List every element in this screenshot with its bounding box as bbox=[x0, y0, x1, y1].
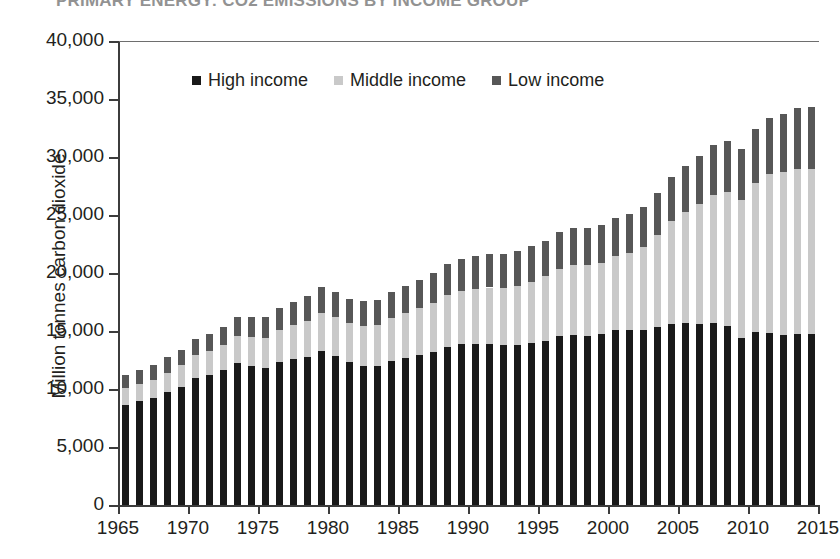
bar-segment bbox=[556, 336, 563, 505]
bar-segment bbox=[458, 291, 465, 344]
bar-segment bbox=[738, 338, 745, 505]
x-axis-tick-label: 1995 bbox=[503, 517, 573, 539]
bar-segment bbox=[374, 366, 381, 505]
bar-segment bbox=[570, 265, 577, 335]
bar-segment bbox=[542, 276, 549, 340]
bar-segment bbox=[150, 365, 157, 379]
bar-segment bbox=[710, 323, 717, 505]
x-axis-tick-mark bbox=[538, 505, 540, 514]
bar-segment bbox=[122, 375, 129, 388]
bar-1998 bbox=[584, 41, 591, 505]
bar-segment bbox=[402, 313, 409, 358]
bar-segment bbox=[332, 292, 339, 318]
bar-segment bbox=[794, 334, 801, 505]
bar-segment bbox=[430, 352, 437, 505]
bar-segment bbox=[598, 334, 605, 505]
bar-1976 bbox=[276, 41, 283, 505]
bar-segment bbox=[472, 256, 479, 289]
bar-segment bbox=[360, 301, 367, 326]
bar-1986 bbox=[416, 41, 423, 505]
bar-segment bbox=[374, 300, 381, 325]
bar-segment bbox=[696, 324, 703, 505]
bar-segment bbox=[458, 344, 465, 505]
bar-segment bbox=[430, 303, 437, 352]
bar-segment bbox=[808, 107, 815, 169]
bar-segment bbox=[402, 286, 409, 313]
y-axis-tick-mark bbox=[109, 389, 118, 391]
chart-title: PRIMARY ENERGY: CO2 EMISSIONS BY INCOME … bbox=[56, 0, 530, 11]
bar-segment bbox=[752, 332, 759, 505]
x-axis-tick-mark bbox=[818, 505, 820, 514]
bar-segment bbox=[304, 357, 311, 505]
bar-segment bbox=[248, 317, 255, 337]
bar-segment bbox=[206, 375, 213, 505]
legend-item-label: Low income bbox=[508, 70, 604, 91]
bar-segment bbox=[290, 325, 297, 359]
bar-2007 bbox=[710, 41, 717, 505]
bar-segment bbox=[752, 129, 759, 183]
x-axis-tick-label: 2000 bbox=[573, 517, 643, 539]
bar-segment bbox=[192, 378, 199, 505]
bar-segment bbox=[654, 235, 661, 327]
bar-1999 bbox=[598, 41, 605, 505]
y-axis-tick-mark bbox=[109, 215, 118, 217]
bar-segment bbox=[472, 289, 479, 344]
bar-2000 bbox=[612, 41, 619, 505]
bar-1972 bbox=[220, 41, 227, 505]
y-axis-tick-label: 10,000 bbox=[46, 377, 104, 399]
bar-1993 bbox=[514, 41, 521, 505]
bar-segment bbox=[556, 232, 563, 269]
bar-2001 bbox=[626, 41, 633, 505]
legend-item-label: Middle income bbox=[350, 70, 466, 91]
bar-segment bbox=[584, 336, 591, 505]
bar-segment bbox=[136, 401, 143, 505]
bar-segment bbox=[486, 344, 493, 505]
bar-segment bbox=[668, 177, 675, 221]
bar-2004 bbox=[668, 41, 675, 505]
bar-1975 bbox=[262, 41, 269, 505]
bar-segment bbox=[724, 326, 731, 505]
bar-segment bbox=[612, 218, 619, 256]
bar-segment bbox=[640, 330, 647, 505]
bar-1969 bbox=[178, 41, 185, 505]
bar-segment bbox=[164, 357, 171, 372]
bar-2013 bbox=[794, 41, 801, 505]
bar-segment bbox=[360, 326, 367, 366]
bar-segment bbox=[304, 296, 311, 320]
bar-segment bbox=[122, 405, 129, 505]
bar-segment bbox=[780, 114, 787, 173]
bar-segment bbox=[612, 330, 619, 505]
bar-segment bbox=[780, 335, 787, 505]
x-axis-tick-label: 2005 bbox=[643, 517, 713, 539]
bar-segment bbox=[318, 351, 325, 505]
x-axis-tick-label: 1965 bbox=[83, 517, 153, 539]
bar-segment bbox=[668, 324, 675, 505]
bar-segment bbox=[528, 343, 535, 505]
bar-2014 bbox=[808, 41, 815, 505]
legend-item: Middle income bbox=[334, 70, 466, 91]
bar-segment bbox=[122, 388, 129, 405]
bar-2009 bbox=[738, 41, 745, 505]
bar-segment bbox=[514, 251, 521, 286]
bar-segment bbox=[248, 337, 255, 365]
bar-2002 bbox=[640, 41, 647, 505]
bar-segment bbox=[500, 288, 507, 345]
bar-1979 bbox=[318, 41, 325, 505]
bar-segment bbox=[192, 355, 199, 378]
x-axis-tick-mark bbox=[608, 505, 610, 514]
bar-segment bbox=[178, 365, 185, 386]
bar-segment bbox=[234, 336, 241, 363]
bar-segment bbox=[402, 358, 409, 505]
x-axis-tick-label: 1975 bbox=[223, 517, 293, 539]
legend-swatch-icon bbox=[492, 76, 501, 85]
bar-segment bbox=[598, 225, 605, 263]
bar-segment bbox=[318, 287, 325, 313]
bar-segment bbox=[234, 363, 241, 505]
bar-segment bbox=[276, 308, 283, 330]
x-axis-tick-mark bbox=[258, 505, 260, 514]
bar-segment bbox=[556, 269, 563, 336]
bar-2003 bbox=[654, 41, 661, 505]
bar-segment bbox=[668, 221, 675, 324]
bar-2006 bbox=[696, 41, 703, 505]
bar-segment bbox=[220, 345, 227, 370]
